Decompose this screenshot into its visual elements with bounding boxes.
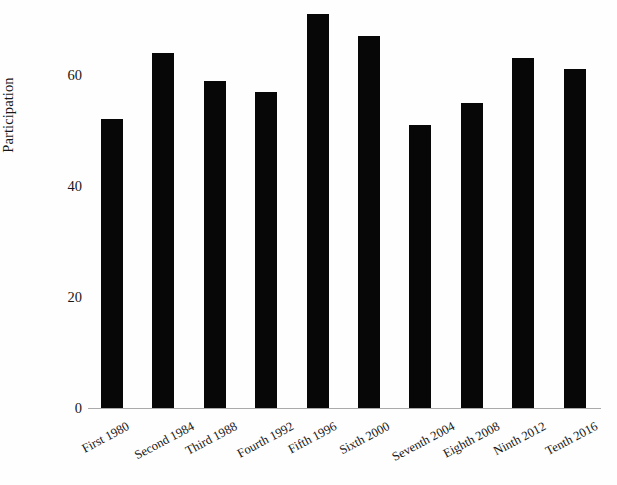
x-tick-label: Fourth 1992 (235, 420, 296, 461)
y-tick-label: 20 (48, 290, 82, 304)
x-tick-label: Sixth 2000 (337, 420, 392, 457)
bar (409, 125, 431, 408)
bar (564, 69, 586, 408)
bar (101, 119, 123, 408)
x-tick-label: Second 1984 (133, 420, 197, 462)
x-axis-tick-labels: First 1980Second 1984Third 1988Fourth 19… (0, 410, 617, 485)
bars-layer (88, 8, 601, 408)
bar (307, 14, 329, 408)
bar (358, 36, 380, 408)
x-axis-line (88, 408, 601, 409)
bar (204, 81, 226, 408)
bar (255, 92, 277, 408)
y-tick-label: 40 (48, 179, 82, 193)
bar (461, 103, 483, 408)
bar-chart: Participation 0204060 First 1980Second 1… (0, 0, 617, 485)
x-tick-label: First 1980 (80, 420, 132, 456)
bar (512, 58, 534, 408)
y-axis-title: Participation (0, 55, 24, 175)
y-tick-label: 60 (48, 68, 82, 82)
x-tick-label: Ninth 2012 (492, 420, 548, 458)
x-tick-label: Fifth 1996 (286, 420, 339, 456)
x-tick-label: Tenth 2016 (543, 420, 599, 458)
bar (152, 53, 174, 408)
